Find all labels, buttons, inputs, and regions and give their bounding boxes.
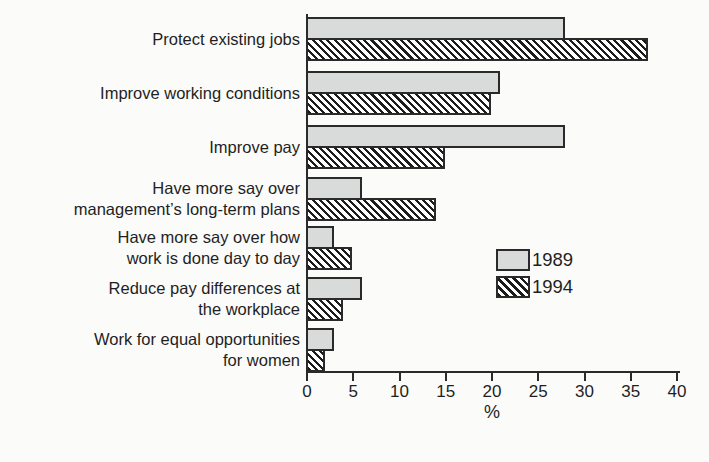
x-tick-mark [399,372,401,381]
x-tick-mark [306,372,308,381]
x-tick-label: 30 [565,382,605,402]
category-label: Protect existing jobs [0,29,300,50]
category-label: Reduce pay differences atthe workplace [0,278,300,320]
bar-1994-3 [306,146,445,169]
x-tick-mark [676,372,678,381]
legend-item-1994: 1994 [496,276,573,298]
legend: 1989 1994 [496,249,573,303]
x-tick-label: 0 [287,382,327,402]
category-label: Work for equal opportunitiesfor women [0,329,300,371]
bar-1994-6 [306,298,343,321]
bar-1989-2 [306,71,500,94]
x-tick-mark [537,372,539,381]
category-label: Have more say overmanagement’s long-term… [0,178,300,220]
x-axis-label: % [472,402,512,423]
bar-1989-7 [306,328,334,351]
bar-1989-5 [306,226,334,249]
bar-1994-4 [306,198,436,221]
x-tick-mark [445,372,447,381]
x-tick-mark [584,372,586,381]
bar-1989-4 [306,177,362,200]
bar-1994-1 [306,38,648,61]
x-tick-mark [491,372,493,381]
bar-1994-2 [306,92,491,115]
bar-1994-7 [306,349,325,372]
y-axis-line [306,14,308,373]
bar-1989-1 [306,17,565,40]
bar-1994-5 [306,247,352,270]
x-tick-label: 25 [518,382,558,402]
legend-swatch-1989-solid [496,249,530,271]
x-tick-mark [630,372,632,381]
x-tick-mark [352,372,354,381]
x-axis-line [306,371,680,373]
x-tick-label: 20 [472,382,512,402]
category-label: Have more say over howwork is done day t… [0,227,300,269]
category-label: Improve working conditions [0,83,300,104]
x-tick-label: 15 [426,382,466,402]
bar-1989-3 [306,125,565,148]
bar-1989-6 [306,277,362,300]
category-label: Improve pay [0,137,300,158]
legend-swatch-1994-hatch [496,276,530,298]
x-tick-label: 10 [380,382,420,402]
legend-label-1994: 1994 [532,276,573,298]
x-tick-label: 40 [657,382,697,402]
x-tick-label: 5 [333,382,373,402]
legend-item-1989: 1989 [496,249,573,271]
x-tick-label: 35 [611,382,651,402]
legend-label-1989: 1989 [532,249,573,271]
grouped-bar-chart: Protect existing jobsImprove working con… [0,0,709,462]
